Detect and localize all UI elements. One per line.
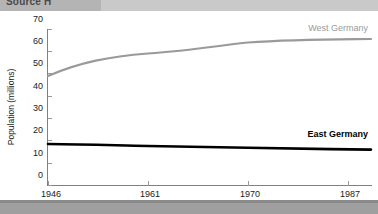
y-tick-label: 0 (38, 170, 43, 180)
chart-figure: Source H 70 60 50 (0, 0, 378, 214)
y-tick-label: 40 (33, 81, 43, 91)
x-ticks (49, 181, 349, 186)
x-tick-label: 1970 (240, 189, 260, 199)
y-tick-labels: 70 60 50 40 30 20 10 0 (33, 14, 43, 180)
series-label-east-germany: East Germany (307, 129, 368, 139)
y-tick-label: 20 (33, 125, 43, 135)
y-tick-label: 10 (33, 148, 43, 158)
plot-area: 70 60 50 40 30 20 10 0 1946 1961 1970 19… (0, 11, 378, 200)
x-tick-labels: 1946 1961 1970 1987 (41, 189, 360, 199)
y-tick-label: 70 (33, 14, 43, 24)
top-banner: Source H (0, 0, 378, 11)
x-tick-label: 1987 (340, 189, 360, 199)
y-tick-label: 60 (33, 36, 43, 46)
y-tick-label: 50 (33, 58, 43, 68)
x-tick-label: 1946 (41, 189, 61, 199)
series-label-west-germany: West Germany (308, 23, 368, 33)
x-tick-label: 1961 (140, 189, 160, 199)
source-label: Source H (6, 0, 52, 7)
series-line-west-germany (48, 39, 371, 76)
y-axis-title: Population (millions) (6, 69, 16, 146)
line-chart: 70 60 50 40 30 20 10 0 1946 1961 1970 19… (0, 11, 378, 211)
series-line-east-germany (48, 144, 371, 150)
y-tick-label: 30 (33, 103, 43, 113)
bottom-banner-shade (0, 200, 378, 203)
y-ticks (48, 30, 53, 186)
